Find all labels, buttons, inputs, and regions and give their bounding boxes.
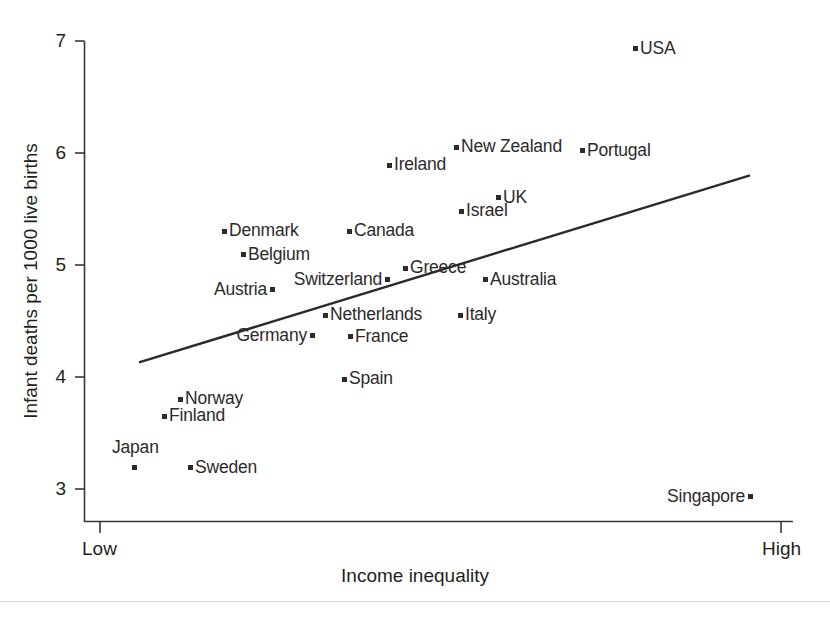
data-point-label: Netherlands	[330, 304, 422, 325]
y-tick-label-3: 3	[26, 478, 66, 500]
data-point-marker[interactable]	[387, 163, 392, 168]
scatter-plot-figure: 7 6 5 4 3 Low High Infant deaths per 100…	[0, 0, 830, 620]
data-point-label: Australia	[490, 269, 556, 290]
data-point-label: Portugal	[587, 140, 651, 161]
data-point-label: Belgium	[248, 244, 310, 265]
x-axis-title: Income inequality	[0, 565, 830, 587]
x-tick-label-high: High	[762, 538, 801, 560]
y-axis-title-wrap: Infant deaths per 1000 live births	[20, 116, 46, 446]
data-point-marker[interactable]	[459, 209, 464, 214]
data-point-marker[interactable]	[270, 287, 275, 292]
y-tick-label-7: 7	[26, 30, 66, 52]
data-point-label: Israel	[466, 200, 508, 221]
data-point-marker[interactable]	[222, 229, 227, 234]
data-point-marker[interactable]	[188, 465, 193, 470]
data-point-label: Austria	[214, 279, 267, 300]
data-point-marker[interactable]	[310, 333, 315, 338]
data-point-label: Ireland	[394, 154, 446, 175]
data-point-label: France	[355, 326, 408, 347]
data-point-marker[interactable]	[178, 397, 183, 402]
data-point-label: Greece	[410, 257, 466, 278]
data-point-marker[interactable]	[483, 277, 488, 282]
data-point-marker[interactable]	[454, 145, 459, 150]
data-point-label: Germany	[236, 325, 307, 346]
y-axis-title: Infant deaths per 1000 live births	[20, 143, 41, 419]
data-point-marker[interactable]	[403, 266, 408, 271]
data-point-label: Italy	[465, 304, 496, 325]
data-point-marker[interactable]	[132, 465, 137, 470]
data-point-marker[interactable]	[323, 313, 328, 318]
data-point-marker[interactable]	[347, 229, 352, 234]
data-point-label: Finland	[169, 405, 225, 426]
data-point-label: Japan	[112, 437, 159, 458]
x-tick-label-low: Low	[82, 538, 117, 560]
data-point-marker[interactable]	[458, 313, 463, 318]
data-point-marker[interactable]	[633, 46, 638, 51]
page-bottom-rule	[0, 601, 830, 602]
data-point-label: Denmark	[229, 220, 299, 241]
data-point-marker[interactable]	[342, 377, 347, 382]
data-point-label: Spain	[349, 368, 393, 389]
data-point-label: Sweden	[195, 457, 257, 478]
data-point-marker[interactable]	[748, 494, 753, 499]
data-point-label: USA	[640, 38, 675, 59]
data-point-marker[interactable]	[580, 148, 585, 153]
data-point-marker[interactable]	[162, 414, 167, 419]
data-point-marker[interactable]	[241, 252, 246, 257]
data-point-marker[interactable]	[385, 277, 390, 282]
data-point-marker[interactable]	[348, 334, 353, 339]
data-point-label: New Zealand	[461, 136, 562, 157]
data-point-label: Canada	[354, 220, 414, 241]
data-point-label: Switzerland	[294, 269, 382, 290]
data-point-label: Singapore	[667, 486, 745, 507]
